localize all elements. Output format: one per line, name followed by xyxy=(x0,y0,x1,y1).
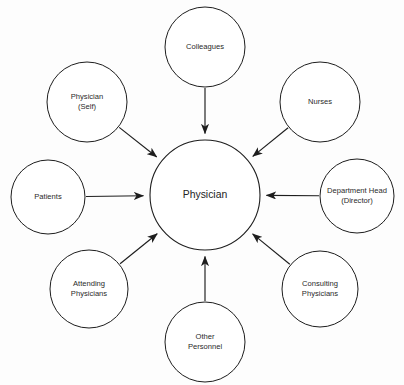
node-layer: PhysicianColleaguesPhysician(Self)Nurses… xyxy=(11,7,394,382)
node-label-physician-self-line-1: Physician xyxy=(71,92,104,101)
node-nurses[interactable]: Nurses xyxy=(280,62,360,142)
hub-and-spoke-diagram: PhysicianColleaguesPhysician(Self)Nurses… xyxy=(0,0,404,385)
node-label-nurses: Nurses xyxy=(308,97,332,106)
edge-patients-to-physician xyxy=(86,196,144,197)
edge-consulting-physicians-to-physician xyxy=(253,234,290,264)
node-consulting-physicians[interactable]: ConsultingPhysicians xyxy=(282,251,358,327)
node-label-attending-physicians-line-1: Attending xyxy=(73,279,105,288)
edge-physician-self-to-physician xyxy=(119,127,157,157)
node-label-physician: Physician xyxy=(183,189,228,200)
node-attending-physicians[interactable]: AttendingPhysicians xyxy=(50,250,128,328)
diagram-canvas: PhysicianColleaguesPhysician(Self)Nurses… xyxy=(0,0,404,385)
node-label-consulting-physicians-line-1: Consulting xyxy=(302,279,338,288)
node-label-consulting-physicians-line-2: Physicians xyxy=(302,289,338,298)
edge-attending-physicians-to-physician xyxy=(120,234,157,264)
node-physician[interactable]: Physician xyxy=(150,140,260,250)
node-label-other-personnel-line-2: Personnel xyxy=(188,342,223,351)
node-label-physician-self-line-2: (Self) xyxy=(78,102,97,111)
node-colleagues[interactable]: Colleagues xyxy=(165,7,245,87)
node-department-head[interactable]: Department Head(Director) xyxy=(320,159,394,233)
node-label-other-personnel-line-1: Other xyxy=(196,332,215,341)
node-label-department-head-line-1: Department Head xyxy=(327,186,387,195)
node-label-colleagues: Colleagues xyxy=(186,42,224,51)
node-label-attending-physicians-line-2: Physicians xyxy=(71,289,107,298)
node-physician-self[interactable]: Physician(Self) xyxy=(47,62,127,142)
node-label-department-head-line-2: (Director) xyxy=(341,196,373,205)
edge-nurses-to-physician xyxy=(253,128,288,157)
node-label-patients: Patients xyxy=(34,192,62,201)
node-patients[interactable]: Patients xyxy=(11,160,85,234)
node-other-personnel[interactable]: OtherPersonnel xyxy=(165,302,245,382)
